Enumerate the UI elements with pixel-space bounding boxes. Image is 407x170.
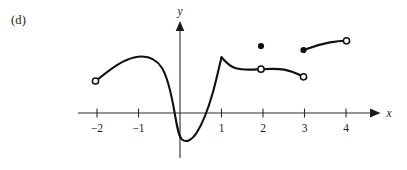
open-circle-x-4: [343, 38, 349, 44]
tick-label-3: 3: [302, 122, 308, 134]
y-axis-arrowhead: [176, 21, 185, 31]
tick-label-1: 1: [219, 122, 225, 134]
tick-label-neg1: −1: [132, 122, 144, 134]
x-axis: [78, 109, 381, 118]
function-graph: −2 −1 1 2 3 4 x y: [0, 0, 407, 170]
filled-dot-markers: [258, 43, 307, 53]
branch-middle-path: [222, 57, 262, 69]
open-circle-x-2: [258, 66, 264, 72]
filled-dot-x-3: [300, 47, 306, 53]
open-circle-x-3-low: [300, 74, 306, 80]
branch-right-low-path: [261, 69, 303, 77]
figure-panel: (d) −2 −1 1 2 3 4: [0, 0, 407, 170]
tick-label-2: 2: [260, 122, 266, 134]
x-axis-label: x: [385, 107, 392, 119]
tick-label-neg2: −2: [91, 122, 103, 134]
x-axis-tick-labels: −2 −1 1 2 3 4: [91, 122, 349, 134]
x-axis-arrowhead: [370, 109, 381, 118]
filled-dot-x-2: [258, 43, 264, 49]
open-circle-x-neg2: [92, 78, 98, 84]
branch-top-right-path: [304, 41, 347, 50]
tick-label-4: 4: [343, 122, 349, 134]
branch-left-path: [96, 57, 222, 141]
y-axis-label: y: [176, 5, 183, 18]
